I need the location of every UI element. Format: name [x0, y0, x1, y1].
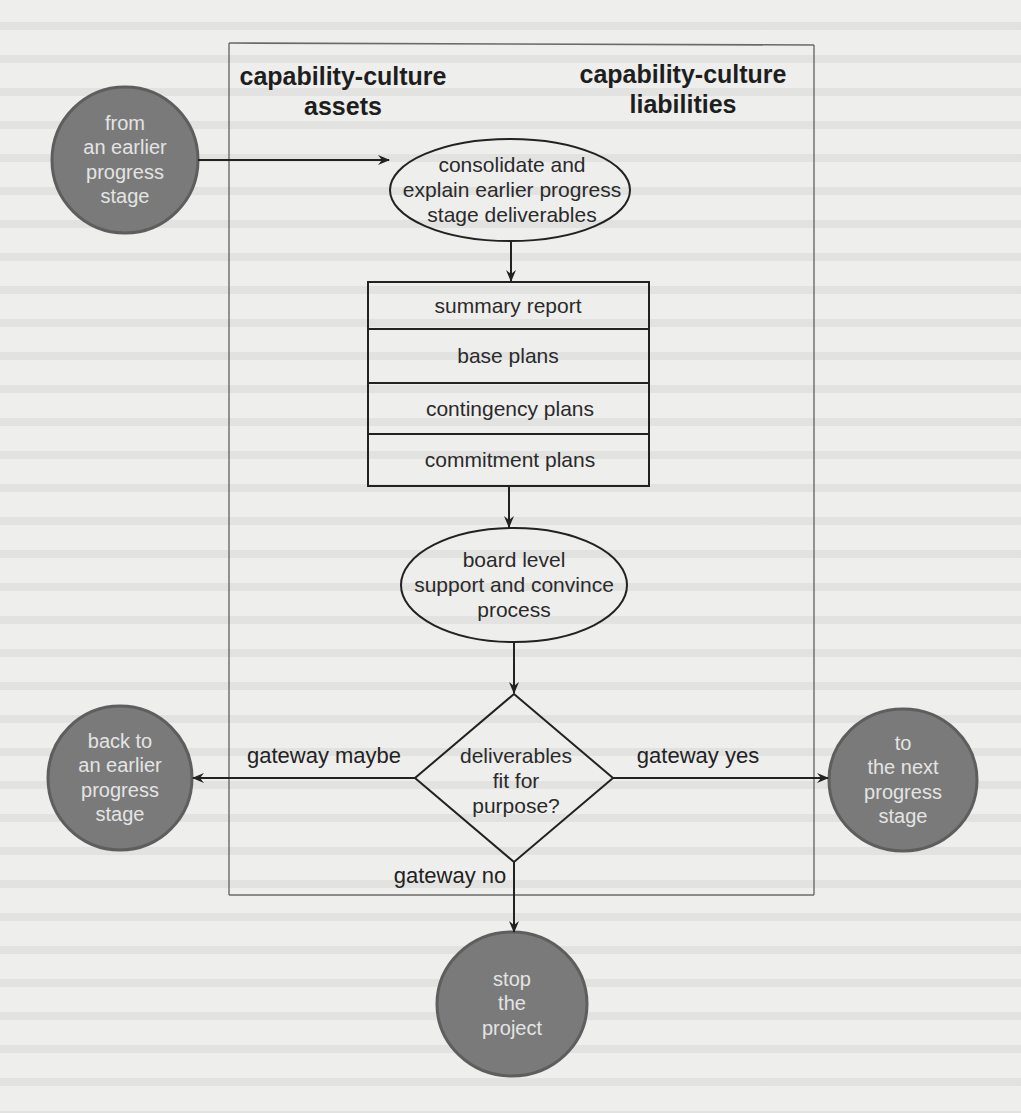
edge-label-gateway-maybe: gateway maybe	[247, 743, 401, 769]
consolidate-node-label: consolidate and explain earlier progress…	[403, 153, 621, 227]
stop-node-label: stop the project	[482, 967, 542, 1040]
stack-row-base-plans: base plans	[457, 344, 559, 369]
next-node-label: to the next progress stage	[864, 731, 942, 829]
edge-label-gateway-yes: gateway yes	[637, 743, 759, 769]
stack-row-contingency-plans: contingency plans	[426, 397, 594, 422]
left-lane-header: capability-culture assets	[240, 61, 447, 121]
stack-row-commitment-plans: commitment plans	[425, 448, 595, 473]
stack-row-summary-report: summary report	[434, 294, 581, 319]
start-node-label: from an earlier progress stage	[83, 111, 166, 209]
board-node-label: board level support and convince process	[414, 548, 614, 622]
decision-node-label: deliverables fit for purpose?	[460, 744, 572, 818]
edge-label-gateway-no: gateway no	[394, 863, 507, 889]
right-lane-header: capability-culture liabilities	[580, 59, 787, 119]
back-node-label: back to an earlier progress stage	[78, 729, 161, 827]
